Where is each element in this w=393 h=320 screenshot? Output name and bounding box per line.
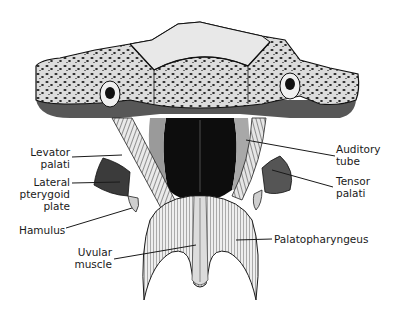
label-tensor-palati: Tensor palati [336,175,370,199]
label-levator-palati: Levator palati [20,146,70,170]
label-line: tube [336,155,381,167]
leader-levator-palati [72,155,122,157]
label-lateral-pterygoid-plate: Lateral pterygoid plate [10,176,70,212]
label-line: Lateral [10,176,70,188]
label-line: Palatopharyngeus [274,233,368,245]
label-line: Tensor [336,175,370,187]
label-line: palati [336,187,370,199]
label-line: muscle [70,258,112,270]
label-line: Hamulus [19,224,65,236]
label-line: pterygoid [10,188,70,200]
label-line: plate [10,200,70,212]
label-auditory-tube: Auditory tube [336,143,381,167]
label-line: palati [20,158,70,170]
label-uvular-muscle: Uvular muscle [70,246,112,270]
label-palatopharyngeus: Palatopharyngeus [274,233,368,245]
leader-hamulus [66,208,132,228]
label-line: Levator [20,146,70,158]
label-line: Auditory [336,143,381,155]
anatomy-diagram: Levator palati Lateral pterygoid plate H… [0,0,393,320]
label-hamulus: Hamulus [19,224,65,236]
label-line: Uvular [70,246,112,258]
